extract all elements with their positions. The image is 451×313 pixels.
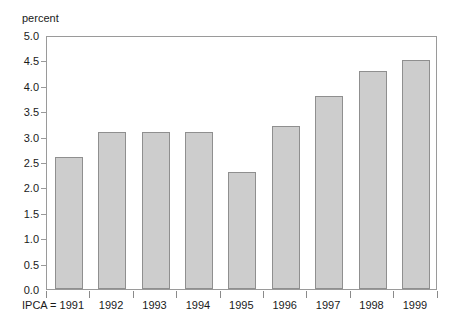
y-axis-tick-mark [41,265,46,266]
x-axis-label-1997: 1997 [316,299,340,311]
y-axis-tick-label: 3.5 [0,106,46,118]
cut-off-title [0,0,451,2]
x-axis-tick-mark [306,291,307,298]
x-axis-tick-mark [46,291,47,298]
x-axis-tick-mark [263,291,264,298]
bar-1996 [272,126,300,289]
y-axis-tick-label: 0.5 [0,259,46,271]
y-axis-tick-mark [41,214,46,215]
x-axis-label-1991: IPCA = 1991 [22,299,84,311]
y-axis-tick-label: 0.0 [0,284,46,296]
bar-1991 [55,157,83,289]
x-axis-tick-mark [437,291,438,298]
y-axis-tick-mark [41,61,46,62]
plot-area [46,36,437,290]
x-axis-tick-mark [220,291,221,298]
y-axis-tick-label: 3.0 [0,132,46,144]
x-axis-tick-mark [133,291,134,298]
y-axis-tick-label: 1.0 [0,233,46,245]
bar-1999 [402,60,430,289]
y-axis-tick-mark [41,188,46,189]
y-axis-tick-label: 4.0 [0,81,46,93]
y-axis-tick-mark [41,112,46,113]
bar-1995 [228,172,256,289]
x-axis-label-1993: 1993 [142,299,166,311]
bar-1997 [315,96,343,289]
bar-1994 [185,132,213,289]
x-axis-tick-mark [176,291,177,298]
y-axis-tick-label: 1.5 [0,208,46,220]
y-axis-tick-mark [41,163,46,164]
y-axis-tick-label: 2.0 [0,182,46,194]
bar-1993 [142,132,170,289]
y-axis-tick-label: 5.0 [0,30,46,42]
bar-1992 [98,132,126,289]
x-axis-label-1995: 1995 [229,299,253,311]
x-axis-label-1992: 1992 [99,299,123,311]
y-axis-tick-mark [41,239,46,240]
y-axis-tick-mark [41,138,46,139]
x-axis-tick-mark [393,291,394,298]
y-axis-tick-mark [41,87,46,88]
y-axis-tick-label: 2.5 [0,157,46,169]
x-axis-label-1996: 1996 [272,299,296,311]
x-axis-label-1994: 1994 [186,299,210,311]
x-axis-label-1998: 1998 [359,299,383,311]
x-axis-tick-mark [89,291,90,298]
bar-1998 [359,71,387,289]
y-axis-tick-label: 4.5 [0,55,46,67]
y-axis-unit-label: percent [22,12,59,24]
x-axis-label-1999: 1999 [403,299,427,311]
x-axis-tick-mark [350,291,351,298]
